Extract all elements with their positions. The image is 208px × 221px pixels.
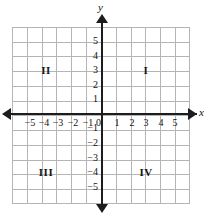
y-tick-label-1: 1 [93,94,98,104]
x-tick-label-neg3: −3 [53,118,64,128]
y-tick-label-2: 2 [93,80,98,90]
x-axis-line [9,113,197,115]
x-tick-label-neg5: −5 [25,118,36,128]
y-tick-label-neg4: −4 [87,167,98,177]
x-axis-left-arrow-icon [2,108,11,120]
quadrant-label-iv: IV [139,167,152,178]
y-tick-label-5: 5 [93,36,98,46]
y-tick-label-neg5: −5 [87,182,98,192]
y-axis-up-arrow-icon [96,14,108,23]
coordinate-plane-figure: y x 0 −5−4−3−2−112345 54321−1−2−3−4−5 II… [0,0,208,221]
x-axis-label: x [199,107,204,118]
quadrant-label-ii: II [41,65,51,76]
y-axis-down-arrow-icon [96,204,108,213]
quadrant-label-i: I [144,65,149,76]
y-axis-label: y [98,2,103,13]
x-tick-label-4: 4 [159,118,164,128]
y-tick-label-neg2: −2 [87,138,98,148]
x-tick-label-neg2: −2 [68,118,79,128]
quadrant-label-iii: III [39,167,53,178]
x-tick-label-2: 2 [130,118,135,128]
y-tick-label-3: 3 [93,65,98,75]
y-axis-line [101,22,103,209]
y-tick-label-4: 4 [93,51,98,61]
x-tick-label-3: 3 [144,118,149,128]
x-axis-right-arrow-icon [188,108,197,120]
x-tick-label-neg4: −4 [39,118,50,128]
y-tick-label-neg3: −3 [87,153,98,163]
y-tick-label-neg1: −1 [87,123,98,133]
x-tick-label-1: 1 [115,118,120,128]
x-tick-label-5: 5 [173,118,178,128]
